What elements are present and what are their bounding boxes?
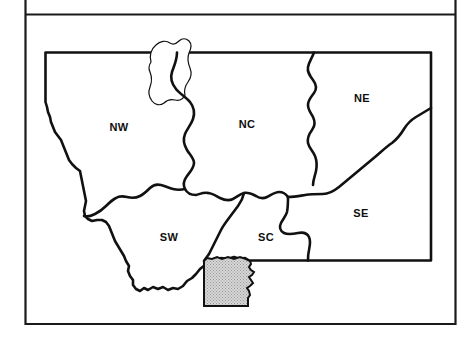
region-label-nw: NW xyxy=(110,121,129,133)
map-page: NW NC NE SW SC SE xyxy=(0,0,475,337)
region-label-nc: NC xyxy=(239,118,256,130)
northern-lake-river-icon xyxy=(149,39,191,105)
water-feature-group xyxy=(149,39,191,105)
region-label-se: SE xyxy=(353,207,368,219)
montana-region-map: NW NC NE SW SC SE xyxy=(0,0,475,337)
region-label-sc: SC xyxy=(258,231,274,243)
state-outline-group xyxy=(46,53,432,292)
region-label-ne: NE xyxy=(354,92,370,104)
region-label-sw: SW xyxy=(160,231,179,243)
montana-state-outline xyxy=(46,53,432,292)
highlight-county-group xyxy=(204,257,254,306)
shaded-county-highlight xyxy=(204,257,254,306)
